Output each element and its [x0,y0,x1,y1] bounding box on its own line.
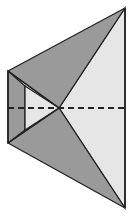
geometry-diagram [0,0,136,220]
